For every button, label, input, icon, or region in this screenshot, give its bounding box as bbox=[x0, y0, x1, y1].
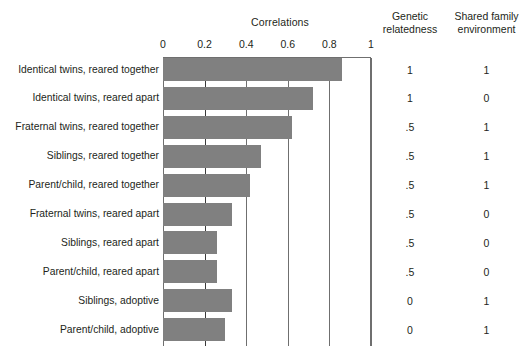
x-tick-label-1: 0.2 bbox=[190, 38, 220, 50]
shared-family-environment-value: 1 bbox=[449, 179, 524, 191]
bar-row bbox=[163, 58, 342, 81]
bar-row bbox=[163, 116, 292, 139]
bar-row bbox=[163, 203, 232, 226]
x-tick-label-3: 0.6 bbox=[273, 38, 303, 50]
category-label: Fraternal twins, reared apart bbox=[1, 208, 159, 219]
bar-row bbox=[163, 318, 225, 341]
bar-row bbox=[163, 87, 313, 110]
genetic-relatedness-value: 1 bbox=[373, 64, 447, 76]
x-tick-label-0: 0 bbox=[148, 38, 178, 50]
genetic-relatedness-value: .5 bbox=[373, 266, 447, 278]
category-label: Identical twins, reared together bbox=[1, 64, 159, 75]
shared-family-environment-value: 1 bbox=[449, 295, 524, 307]
shared-family-environment-value: 1 bbox=[449, 324, 524, 336]
chart-title: Correlations bbox=[220, 16, 340, 28]
genetic-relatedness-value: .5 bbox=[373, 208, 447, 220]
bar bbox=[163, 318, 225, 341]
x-tick-label-2: 0.4 bbox=[231, 38, 261, 50]
bar-row bbox=[163, 260, 217, 283]
bar bbox=[163, 174, 250, 197]
bar-row bbox=[163, 145, 261, 168]
category-label: Identical twins, reared apart bbox=[1, 92, 159, 103]
shared-family-environment-value: 1 bbox=[449, 64, 524, 76]
shared-family-environment-value: 0 bbox=[449, 237, 524, 249]
shared-family-environment-value: 1 bbox=[449, 121, 524, 133]
bar-series bbox=[163, 57, 371, 346]
bar bbox=[163, 231, 217, 254]
bar-row bbox=[163, 289, 232, 312]
genetic-relatedness-value: .5 bbox=[373, 237, 447, 249]
genetic-relatedness-value: .5 bbox=[373, 179, 447, 191]
bar bbox=[163, 116, 292, 139]
shared-family-environment-value: 0 bbox=[449, 92, 524, 104]
category-label: Siblings, reared apart bbox=[1, 237, 159, 248]
genetic-header-line1: Genetic bbox=[373, 10, 447, 23]
genetic-relatedness-value: 0 bbox=[373, 295, 447, 307]
bar bbox=[163, 260, 217, 283]
category-label: Parent/child, reared together bbox=[1, 179, 159, 190]
category-label: Siblings, adoptive bbox=[1, 295, 159, 306]
genetic-relatedness-value: 1 bbox=[373, 92, 447, 104]
shared-family-environment-value: 0 bbox=[449, 266, 524, 278]
category-labels: Identical twins, reared togetherIdentica… bbox=[0, 57, 159, 346]
category-label: Fraternal twins, reared together bbox=[1, 121, 159, 132]
genetic-relatedness-value: 0 bbox=[373, 324, 447, 336]
bar bbox=[163, 87, 313, 110]
correlation-chart-figure: Correlations Genetic relatedness Shared … bbox=[0, 0, 524, 359]
bar-row bbox=[163, 174, 250, 197]
x-tick-label-5: 1 bbox=[356, 38, 386, 50]
genetic-relatedness-value: .5 bbox=[373, 150, 447, 162]
genetic-header-line2: relatedness bbox=[373, 23, 447, 36]
category-label: Siblings, reared together bbox=[1, 150, 159, 161]
column-header-shared-family-environment: Shared family environment bbox=[449, 10, 524, 35]
shared-family-environment-value: 1 bbox=[449, 150, 524, 162]
bar bbox=[163, 203, 232, 226]
shared-family-environment-value: 0 bbox=[449, 208, 524, 220]
x-tick-label-4: 0.8 bbox=[314, 38, 344, 50]
shared-header-line2: environment bbox=[449, 23, 524, 36]
annotation-columns: 1110.51.51.51.50.50.500101 bbox=[371, 57, 524, 346]
shared-header-line1: Shared family bbox=[449, 10, 524, 23]
genetic-relatedness-value: .5 bbox=[373, 121, 447, 133]
bar bbox=[163, 289, 232, 312]
bar bbox=[163, 145, 261, 168]
column-header-genetic-relatedness: Genetic relatedness bbox=[373, 10, 447, 35]
bar bbox=[163, 58, 342, 81]
bar-row bbox=[163, 231, 217, 254]
category-label: Parent/child, adoptive bbox=[1, 324, 159, 335]
category-label: Parent/child, reared apart bbox=[1, 266, 159, 277]
